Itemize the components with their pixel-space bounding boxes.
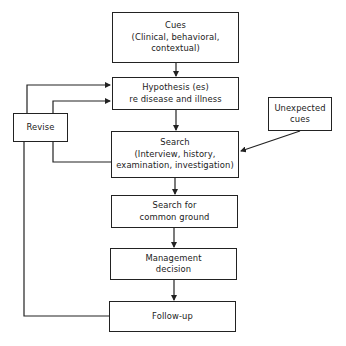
- common-ground-line-2: common ground: [139, 212, 209, 224]
- search-detail-2: examination, investigation): [116, 160, 234, 172]
- management-line-2: decision: [156, 264, 191, 276]
- cues-detail-2: contextual): [151, 43, 200, 55]
- search-title: Search: [160, 137, 189, 149]
- cues-detail-1: (Clinical, behavioral,: [132, 32, 220, 44]
- management-line-1: Management: [145, 253, 201, 265]
- common-ground-box: Search for common ground: [111, 195, 238, 228]
- flowchart-canvas: Cues (Clinical, behavioral, contextual) …: [0, 0, 346, 346]
- follow-up-box: Follow-up: [109, 301, 236, 332]
- hypothesis-line-2: re disease and illness: [129, 94, 221, 106]
- search-box: Search (Interview, history, examination,…: [111, 131, 239, 178]
- management-decision-box: Management decision: [110, 248, 237, 280]
- cues-box: Cues (Clinical, behavioral, contextual): [112, 12, 239, 63]
- hypothesis-line-1: Hypothesis (es): [142, 82, 209, 94]
- common-ground-line-1: Search for: [153, 200, 197, 212]
- unexpected-line-2: cues: [290, 114, 310, 126]
- hypothesis-box: Hypothesis (es) re disease and illness: [112, 77, 239, 110]
- unexpected-cues-box: Unexpected cues: [268, 97, 332, 131]
- revise-label: Revise: [27, 122, 55, 134]
- unexpected-line-1: Unexpected: [274, 103, 325, 115]
- search-detail-1: (Interview, history,: [134, 149, 215, 161]
- follow-up-label: Follow-up: [152, 311, 193, 323]
- revise-box: Revise: [13, 113, 68, 142]
- cues-title: Cues: [165, 20, 186, 32]
